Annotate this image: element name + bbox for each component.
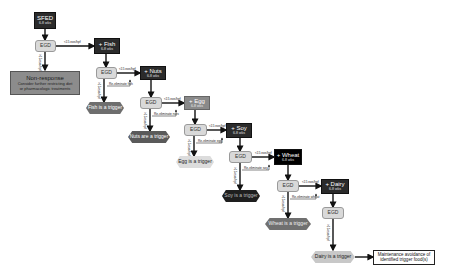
trigger-label: Wheat is a trigger [268,221,307,226]
egd-label: EGD [40,43,51,48]
reeliminate-label-soy: Re-eliminate soy [244,166,268,170]
reeliminate-label-wheat: Re-eliminate wheat [292,195,319,199]
trigger-label: Dairy is a trigger [315,254,351,259]
add-egg-box: + Egg 6-8 wks [184,96,210,110]
non-response-line2: or pharmacologic treatments [20,87,71,91]
add-fish-box: + Fish 6-8 wks [94,38,120,54]
egd-box-3: EGD [184,124,207,136]
food-label: + Egg [189,98,205,104]
sfed-duration: 6-8 wks [39,22,51,26]
threshold-high-label-3: >15 eos/hpf [187,139,191,156]
trigger-wheat: Wheat is a trigger [265,218,311,230]
trigger-dairy: Dairy is a trigger [311,251,355,263]
egd-box-1: EGD [96,67,117,79]
threshold-low-label-2: <15 eos/hpf [164,97,181,101]
reeliminate-label-egg: Re-eliminate egg [198,139,222,143]
trigger-egg: Egg is a trigger [176,156,214,168]
maintenance-box: Maintenance avoidance of identified trig… [373,250,435,265]
egd-box-0: EGD [35,40,56,52]
non-response-box: Non-response Consider further restrictin… [10,71,80,95]
trigger-label: Nuts are a trigger [130,134,169,139]
food-duration: 6-8 wks [329,188,341,192]
food-duration: 6-8 wks [282,159,294,163]
egd-box-6: EGD [322,207,344,219]
egd-label: EGD [146,100,157,105]
maintenance-label: Maintenance avoidance of identified trig… [377,253,431,262]
food-duration: 6-8 wks [101,48,113,52]
eoe-food-reintroduction-flowchart: SFED 6-8 wks EGD <15 eos/hpf >15 eos/hpf… [0,0,456,272]
threshold-high-label-2: >15 eos/hpf [143,112,147,129]
threshold-high-label-6: >15 eos/hpf [326,224,330,241]
threshold-low-label-3: <15 eos/hpf [209,124,226,128]
egd-label: EGD [235,154,246,159]
trigger-label: Egg is a trigger [178,159,212,164]
add-wheat-box: + Wheat 6-8 wks [274,149,302,165]
threshold-high-label-1: >15 eos/hpf [97,82,101,99]
egd-label: EGD [190,127,201,132]
threshold-low-label-0: <15 eos/hpf [64,40,81,44]
trigger-label: Fish is a trigger [88,105,122,110]
egd-label: EGD [283,183,294,188]
egd-box-2: EGD [140,97,162,109]
egd-label: EGD [101,70,112,75]
add-nuts-box: + Nuts 6-8 wks [140,66,166,80]
food-duration: 6-8 wks [191,105,203,109]
trigger-fish: Fish is a trigger [86,102,124,114]
egd-label: EGD [328,210,339,215]
food-label: + Nuts [144,68,162,74]
reeliminate-label-nuts: Re-eliminate nuts [154,112,179,116]
reeliminate-label-fish: Re-eliminate fish [109,82,133,86]
egd-box-5: EGD [277,180,299,192]
threshold-low-label-1: <15 eos/hpf [119,67,136,71]
non-response-title: Non-response [26,75,64,81]
threshold-high-label-5: >15 eos/hpf [281,195,285,212]
trigger-nuts: Nuts are a trigger [128,131,170,143]
threshold-high-label-0: >15 eos/hpf [38,54,42,71]
trigger-soy: Soy is a trigger [222,190,260,202]
sfed-box: SFED 6-8 wks [34,12,56,29]
threshold-low-label-4: <15 eos/hpf [255,151,272,155]
add-soy-box: + Soy 6-8 wks [226,123,252,138]
threshold-high-label-4: >15 eos/hpf [233,167,237,184]
egd-box-4: EGD [229,151,252,163]
food-label: + Wheat [277,152,300,158]
trigger-label: Soy is a trigger [224,193,257,198]
threshold-low-label-5: <15 eos/hpf [302,180,319,184]
food-duration: 6-8 wks [147,75,159,79]
add-dairy-box: + Dairy 6-8 wks [321,179,349,194]
food-label: + Fish [99,41,116,47]
food-duration: 6-8 wks [233,132,245,136]
